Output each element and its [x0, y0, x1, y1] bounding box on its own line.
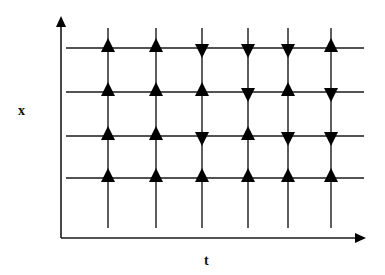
arrow-up-icon — [149, 168, 163, 182]
arrow-down-icon — [241, 44, 255, 58]
arrow-down-icon — [324, 132, 338, 146]
arrow-up-icon — [324, 38, 338, 52]
arrow-up-icon — [101, 168, 115, 182]
arrow-up-icon — [281, 168, 295, 182]
arrow-up-icon — [101, 126, 115, 140]
arrow-down-icon — [324, 88, 338, 102]
x-axis-arrowhead-icon — [56, 16, 66, 27]
arrow-up-icon — [324, 168, 338, 182]
arrow-up-icon — [195, 168, 209, 182]
arrow-up-icon — [149, 38, 163, 52]
arrow-up-icon — [149, 126, 163, 140]
t-axis-label: t — [204, 254, 209, 268]
arrow-down-icon — [195, 132, 209, 146]
horizontal-grid-lines — [66, 48, 364, 178]
arrow-up-icon — [101, 38, 115, 52]
arrow-up-icon — [241, 168, 255, 182]
arrow-down-icon — [195, 44, 209, 58]
t-axis-arrowhead-icon — [355, 233, 366, 243]
direction-field-diagram — [0, 0, 385, 275]
arrow-up-icon — [195, 82, 209, 96]
arrow-up-icon — [101, 82, 115, 96]
vertical-grid-lines — [108, 28, 331, 228]
arrow-down-icon — [241, 88, 255, 102]
arrow-down-icon — [281, 132, 295, 146]
arrow-up-icon — [281, 82, 295, 96]
arrow-up-icon — [241, 126, 255, 140]
arrow-down-icon — [281, 44, 295, 58]
x-axis-label: x — [18, 104, 25, 118]
direction-arrows — [101, 38, 338, 182]
arrow-up-icon — [149, 82, 163, 96]
